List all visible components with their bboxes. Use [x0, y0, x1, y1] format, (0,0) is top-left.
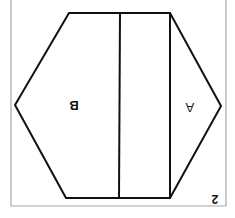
- region-label-b: B: [69, 98, 78, 113]
- figure-number: 2: [211, 192, 218, 206]
- diagram-canvas: B A 2: [0, 0, 235, 218]
- region-label-a: A: [185, 100, 194, 115]
- hexagon-diagram: B A 2: [0, 0, 235, 218]
- divider-line-left: [119, 13, 120, 198]
